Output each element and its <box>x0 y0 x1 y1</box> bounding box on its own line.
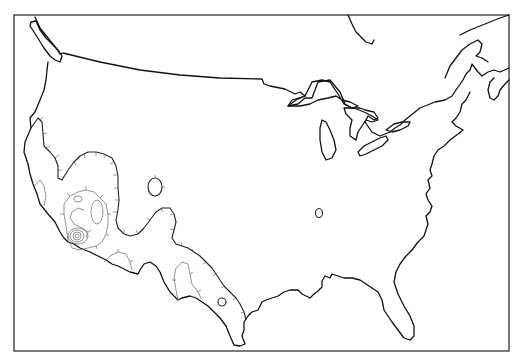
lake-ontario <box>386 122 410 132</box>
isolated-contour-utah <box>148 178 162 196</box>
st-lawrence-coast <box>445 15 509 78</box>
concentric-contour-rings <box>68 228 88 244</box>
vancouver-island <box>30 21 62 62</box>
map-container <box>0 0 525 362</box>
isolated-contour-missouri <box>316 209 323 218</box>
inner-contour-texas <box>174 262 202 300</box>
map-frame <box>14 15 509 351</box>
inner-contour-right-ellipse <box>91 200 103 224</box>
lake-michigan <box>320 120 336 160</box>
inner-contour-small-ellipse <box>74 196 82 202</box>
us-outline <box>24 17 509 346</box>
james-bay-coast <box>348 15 374 44</box>
southwest-main-contour <box>31 118 246 320</box>
us-contour-map <box>0 0 525 362</box>
inner-contour-s-shape <box>70 208 88 238</box>
lake-huron <box>344 108 378 140</box>
isolated-contour-texas <box>218 298 226 306</box>
lake-erie <box>358 136 388 156</box>
